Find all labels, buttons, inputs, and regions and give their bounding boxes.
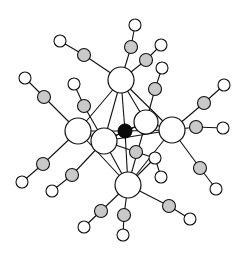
oxygen-atom bbox=[46, 185, 58, 197]
oxygen-atom bbox=[156, 62, 168, 74]
metal-atom bbox=[65, 118, 91, 144]
carbon-atom bbox=[38, 91, 51, 104]
carbon-atom bbox=[194, 162, 207, 175]
molecular-cluster-diagram bbox=[0, 0, 246, 257]
oxygen-atom bbox=[117, 229, 129, 241]
oxygen-atom bbox=[19, 72, 31, 84]
oxygen-atom bbox=[217, 122, 229, 134]
oxygen-atom bbox=[129, 19, 141, 31]
carbon-atom bbox=[149, 83, 162, 96]
carbon-atom bbox=[163, 200, 176, 213]
oxygen-atom bbox=[68, 78, 80, 90]
metal-atom bbox=[134, 110, 158, 134]
carbon-atom bbox=[78, 100, 91, 113]
carbon-atom bbox=[140, 54, 153, 67]
carbon-atom bbox=[66, 169, 79, 182]
carbon-atom bbox=[95, 205, 108, 218]
carbon-atom bbox=[78, 49, 91, 62]
oxygen-atom bbox=[184, 213, 196, 225]
oxygen-atom bbox=[78, 221, 90, 233]
atom-layer bbox=[16, 19, 230, 241]
oxygen-atom bbox=[210, 183, 222, 195]
metal-atom bbox=[115, 172, 141, 198]
carbon-atom bbox=[198, 97, 211, 110]
metal-atom bbox=[108, 67, 134, 93]
oxygen-atom bbox=[149, 152, 161, 164]
oxygen-atom bbox=[54, 35, 66, 47]
oxygen-atom bbox=[218, 79, 230, 91]
carbon-atom bbox=[190, 121, 203, 134]
carbon-atom bbox=[130, 146, 143, 159]
metal-atom bbox=[159, 117, 185, 143]
oxygen-atom bbox=[16, 176, 28, 188]
oxygen-atom bbox=[155, 171, 167, 183]
carbon-atom bbox=[118, 209, 131, 222]
oxygen-atom bbox=[155, 39, 167, 51]
carbon-atom bbox=[37, 158, 50, 171]
metal-atom bbox=[91, 128, 117, 154]
interstitial-atom bbox=[118, 124, 132, 138]
carbon-atom bbox=[125, 41, 138, 54]
